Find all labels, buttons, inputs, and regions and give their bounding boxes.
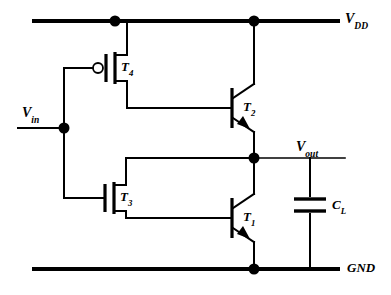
t2-label-base: T <box>243 99 251 114</box>
t1-label-sub: 1 <box>251 218 255 228</box>
t2-collector-lead <box>233 84 254 98</box>
vout-label-sub: out <box>305 149 318 159</box>
t1-collector-lead <box>233 194 254 208</box>
t1-label-base: T <box>243 209 251 224</box>
t4-label: T4 <box>121 60 133 76</box>
t1-label: T1 <box>243 210 255 226</box>
circuit-diagram: VDD Vin Vout GND T4 T3 T2 T1 CL <box>0 0 391 295</box>
cl-label-base: C <box>332 197 341 212</box>
gnd-label: GND <box>347 261 375 274</box>
vdd-label-base: V <box>345 11 354 26</box>
t2-label: T2 <box>243 100 255 116</box>
cl-label: CL <box>332 198 346 214</box>
vout-label-base: V <box>296 139 305 154</box>
t3-label: T3 <box>120 190 132 206</box>
t4-gate-bubble-icon <box>93 63 103 73</box>
t3-label-sub: 3 <box>128 198 132 208</box>
t4-label-base: T <box>121 59 129 74</box>
t2-emitter-arrow-icon <box>237 116 250 129</box>
circuit-schematic-canvas <box>0 0 391 295</box>
t1-emitter-arrow-icon <box>237 226 250 239</box>
vin-label-base: V <box>22 105 31 120</box>
node-dot-vdd-left <box>110 16 121 27</box>
t4-label-sub: 4 <box>129 68 133 78</box>
node-dot-vin <box>59 123 70 134</box>
vdd-label: VDD <box>345 12 368 29</box>
vin-label-sub: in <box>31 115 39 125</box>
vdd-label-sub: DD <box>354 21 368 31</box>
t3-label-base: T <box>120 189 128 204</box>
node-dot-vout <box>249 153 260 164</box>
node-dot-vdd-right <box>249 16 260 27</box>
cl-label-sub: L <box>341 206 346 216</box>
vout-label: Vout <box>296 140 318 157</box>
node-dot-gnd <box>249 264 260 275</box>
vin-label: Vin <box>22 106 39 123</box>
t2-label-sub: 2 <box>251 108 255 118</box>
